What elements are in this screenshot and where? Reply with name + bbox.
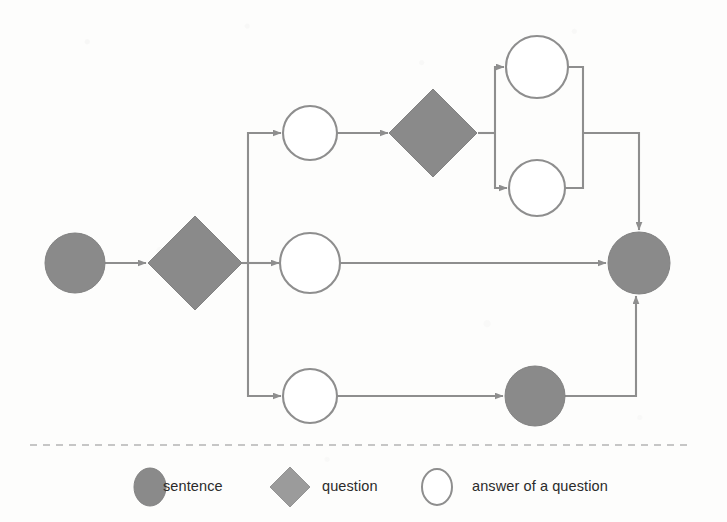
edge-question2-to-answer-upper (495, 67, 504, 133)
diagram-page: sentence question answer of a question (0, 0, 727, 522)
edge-question1-to-answer-bottom (248, 263, 281, 396)
node-end-sentence[interactable] (608, 232, 670, 294)
node-answer-1-bottom[interactable] (283, 369, 337, 423)
node-start-sentence[interactable] (45, 233, 105, 293)
node-question-1[interactable] (148, 216, 242, 310)
node-sentence-bottom[interactable] (505, 366, 565, 426)
edge-answer-upper-to-join (568, 67, 583, 133)
legend-answer-icon (422, 469, 452, 505)
flow-diagram-canvas (0, 0, 727, 522)
node-answer-1-middle[interactable] (280, 233, 340, 293)
node-question-2[interactable] (389, 89, 477, 177)
node-layer (45, 36, 670, 426)
edge-join-to-end-sentence (583, 133, 639, 230)
legend-sentence-label: sentence (163, 478, 223, 494)
edge-question1-to-answer-top (248, 133, 281, 263)
node-answer-1-top[interactable] (283, 106, 337, 160)
legend-sentence-icon (134, 468, 166, 506)
legend-answer-label: answer of a question (472, 478, 608, 494)
legend-question-icon (270, 467, 310, 507)
node-answer-2-lower[interactable] (509, 160, 565, 216)
legend-question-label: question (322, 478, 378, 494)
edge-answer-lower-to-join (565, 133, 583, 188)
edge-question2-to-answer-lower (495, 133, 507, 188)
node-answer-2-upper[interactable] (506, 36, 568, 98)
edge-sentence-bottom-to-end (565, 296, 636, 396)
